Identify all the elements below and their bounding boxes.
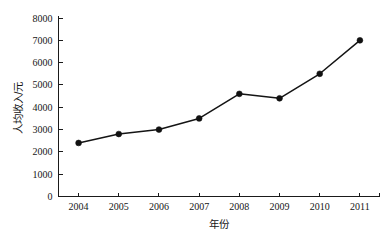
y-tick-label: 1000 — [33, 169, 53, 180]
x-tick-label: 2011 — [350, 201, 370, 212]
y-tick-label: 5000 — [33, 79, 53, 90]
y-tick-label: 6000 — [33, 57, 53, 68]
y-tick-label: 8000 — [33, 13, 53, 24]
chart-canvas: 010002000300040005000600070008000 200420… — [0, 0, 389, 246]
data-point-marker — [156, 127, 162, 133]
x-tick-label: 2010 — [310, 201, 330, 212]
data-point-marker — [357, 37, 363, 43]
y-tick-label: 4000 — [33, 102, 53, 113]
x-tick-label: 2004 — [69, 201, 89, 212]
data-point-marker — [277, 95, 283, 101]
x-axis-title: 年份 — [209, 218, 230, 230]
y-tick-label: 0 — [48, 191, 53, 202]
data-point-marker — [236, 91, 242, 97]
data-point-marker — [196, 116, 202, 122]
x-tick-label: 2005 — [109, 201, 129, 212]
y-axis-tick-labels: 010002000300040005000600070008000 — [33, 13, 53, 203]
data-point-marker — [116, 131, 122, 137]
y-tick-label: 3000 — [33, 124, 53, 135]
y-tick-label: 7000 — [33, 35, 53, 46]
data-point-marker — [317, 71, 323, 77]
x-tick-label: 2007 — [189, 201, 209, 212]
data-point-marker — [76, 140, 82, 146]
x-tick-label: 2009 — [270, 201, 290, 212]
y-tick-label: 2000 — [33, 146, 53, 157]
line-chart: 010002000300040005000600070008000 200420… — [0, 0, 389, 246]
x-tick-label: 2008 — [229, 201, 249, 212]
x-tick-label: 2006 — [149, 201, 169, 212]
y-axis-title: 人均收入/元 — [12, 81, 24, 135]
